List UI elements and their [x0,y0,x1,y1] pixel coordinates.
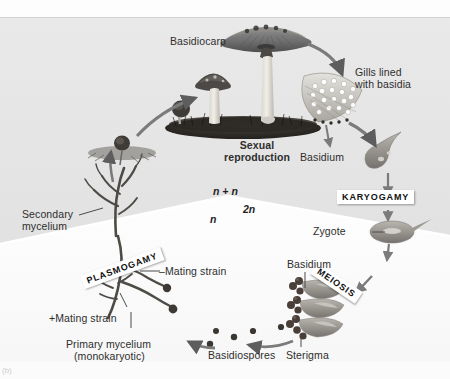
label-minus-mating-strain: –Mating strain [159,266,226,278]
label-basidium-lower: Basidium [287,259,331,271]
mushroom-large-icon [220,25,311,124]
ploidy-label-dikaryotic: n + n [213,185,238,197]
sexual-reproduction-line-1: Sexual [212,140,302,152]
label-basidium-upper: Basidium [300,152,344,164]
label-primary-mycelium-line-1: Primary mycelium [66,339,151,351]
label-basidiocarp: Basidiocarp [170,36,226,48]
germinating-spore-icon [88,136,156,166]
label-sterigma: Sterigma [286,350,329,362]
spore-dot-icon [207,324,284,347]
label-secondary-mycelium-line-2: mycelium [22,221,67,233]
label-gills-line-2: with basidia [355,79,411,91]
life-cycle-figure: KARYOGAMY MEIOSIS PLASMOGAMY Sexual repr… [0,0,450,379]
process-label-karyogamy: KARYOGAMY [337,190,414,204]
label-secondary-mycelium-line-1: Secondary [22,209,73,221]
label-plus-mating-strain: +Mating strain [49,313,117,325]
ploidy-label-haploid: n [210,213,216,225]
label-basidiospores: Basidiospores [208,350,275,362]
label-gills-line-1: Gills lined [355,67,402,79]
label-zygote: Zygote [313,226,346,238]
label-primary-mycelium-line-2: (monokaryotic) [74,351,145,363]
mycelium-tip-icon [163,284,178,314]
soil-bed-icon [165,113,321,139]
ploidy-label-diploid: 2n [243,203,255,215]
gills-wedge-icon [302,73,362,125]
sexual-reproduction-line-2: reproduction [202,152,312,164]
figure-corner-label: (b) [2,366,12,375]
